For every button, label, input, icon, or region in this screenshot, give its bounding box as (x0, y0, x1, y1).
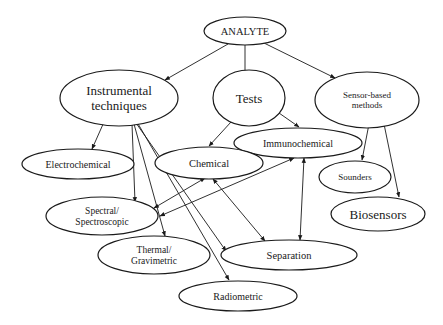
analyte-methods-diagram: ANALYTEInstrumentaltechniquesTestsSensor… (0, 0, 443, 325)
node-chemical-label: Chemical (189, 158, 229, 169)
node-separation: Separation (221, 240, 357, 270)
node-radiometric-label: Radiometric (213, 291, 263, 302)
node-spectral-label: Spectral/ (85, 206, 119, 216)
node-thermal-label: Thermal/ (137, 245, 172, 255)
node-thermal-label: Gravimetric (131, 256, 177, 266)
nodes-layer: ANALYTEInstrumentaltechniquesTestsSensor… (22, 17, 425, 311)
edge-sensor-to-biosensors (384, 124, 399, 197)
edge-tests-to-immunochemical (279, 113, 299, 127)
edge-analyte-to-instrumental (165, 44, 228, 80)
node-sensor: Sensor-basedmethods (315, 72, 419, 128)
node-tests-label: Tests (236, 91, 263, 106)
node-analyte: ANALYTE (204, 17, 286, 45)
edge-tests-to-chemical (209, 122, 231, 146)
node-electrochemical-label: Electrochemical (46, 159, 111, 170)
node-tests: Tests (213, 70, 285, 126)
edge-sensor-to-sounders (362, 124, 369, 160)
node-sounders: Sounders (319, 161, 391, 193)
node-thermal: Thermal/Gravimetric (98, 236, 210, 274)
node-separation-label: Separation (267, 250, 313, 261)
node-radiometric: Radiometric (179, 281, 297, 311)
node-immunochemical-label: Immunochemical (263, 138, 333, 149)
node-spectral: Spectral/Spectroscopic (46, 197, 158, 235)
edge-immunochemical-to-separation (300, 158, 304, 240)
edge-analyte-to-sensor (264, 43, 335, 78)
node-analyte-label: ANALYTE (221, 26, 270, 37)
node-sensor-label: Sensor-based (343, 90, 391, 100)
edge-chemical-to-separation (213, 179, 265, 241)
node-biosensors: Biosensors (331, 197, 425, 231)
node-sounders-label: Sounders (338, 172, 372, 182)
node-spectral-label: Spectroscopic (75, 217, 128, 227)
edge-instrumental-to-electrochemical (92, 122, 104, 149)
node-instrumental-label: techniques (91, 98, 147, 113)
node-instrumental: Instrumentaltechniques (60, 70, 178, 126)
node-electrochemical: Electrochemical (22, 149, 134, 179)
edge-spectral-to-chemical (154, 178, 205, 208)
node-chemical: Chemical (155, 147, 263, 179)
node-instrumental-label: Instrumental (86, 83, 152, 98)
node-sensor-label: methods (352, 100, 383, 110)
node-biosensors-label: Biosensors (349, 207, 406, 222)
